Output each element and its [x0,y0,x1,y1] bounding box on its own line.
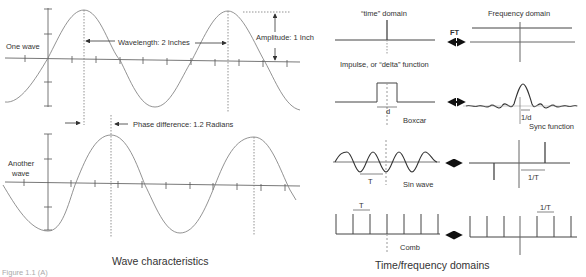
ft-arrows [447,42,464,235]
wavelength-label: Wavelength: 2 Inches [118,38,190,47]
wave2-label-line1: Another [8,159,34,168]
comb-row [336,210,577,255]
impulse-label: Impulse, or “delta” function [340,60,429,69]
comb-label: Comb [400,243,420,252]
frequency-domain-header: Frequency domain [488,9,550,18]
left-panel-title: Wave characteristics [112,255,208,267]
sync-label: Sync function [529,122,574,131]
impulse-row [335,20,575,62]
boxcar-row [335,83,578,125]
sync-dim: 1/d [521,113,531,122]
sin-freq-dim: 1/T [528,173,539,182]
wave2-label-line2: wave [12,169,30,178]
wave2-plot [3,115,300,238]
comb-freq-dim: 1/T [540,203,551,212]
wave1-plot [5,8,300,125]
boxcar-label: Boxcar [403,116,426,125]
wave1-label: One wave [6,42,40,51]
right-panel-title: Time/frequency domains [375,259,490,271]
time-domain-header: “time” domain [361,9,407,18]
sin-label: Sin wave [403,180,433,189]
figure-caption: Figure 1.1 (A) [2,268,48,277]
amplitude-label: Amplitude: 1 Inch [256,33,314,42]
ft-label: FT [450,28,459,37]
boxcar-dim: d [386,107,390,116]
phase-difference-label: Phase difference: 1.2 Radians [133,120,233,129]
sin-dim: T [368,177,373,186]
comb-dim: T [359,201,364,210]
